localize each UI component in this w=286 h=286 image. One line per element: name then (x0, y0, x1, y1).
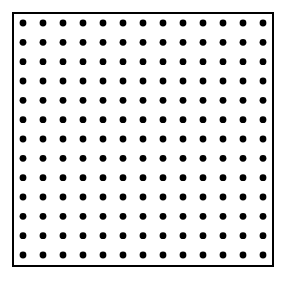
grid-dot (160, 174, 167, 181)
grid-dot (180, 78, 187, 85)
grid-dot (160, 232, 167, 239)
grid-dot (140, 174, 147, 181)
grid-dot (60, 78, 67, 85)
grid-dot (80, 20, 87, 27)
grid-dot (200, 136, 207, 143)
grid-dot (40, 174, 47, 181)
grid-dot (140, 78, 147, 85)
grid-dot (100, 97, 107, 104)
grid-dot (100, 116, 107, 123)
grid-dot (60, 194, 67, 201)
grid-dot (120, 174, 127, 181)
grid-dot (220, 78, 227, 85)
grid-dot (220, 116, 227, 123)
grid-dot (240, 155, 247, 162)
grid-dot (140, 155, 147, 162)
grid-dot (240, 252, 247, 259)
grid-dot (220, 39, 227, 46)
grid-dot (100, 194, 107, 201)
grid-dot (40, 155, 47, 162)
grid-dot (60, 155, 67, 162)
grid-dot (160, 116, 167, 123)
grid-dot (80, 97, 87, 104)
grid-dot (40, 232, 47, 239)
grid-dot (160, 39, 167, 46)
dot-grid-diagram (0, 0, 286, 286)
grid-dot (200, 78, 207, 85)
grid-dot (240, 20, 247, 27)
grid-dot (80, 116, 87, 123)
grid-dot (80, 194, 87, 201)
grid-dot (220, 58, 227, 65)
grid-dot (80, 58, 87, 65)
grid-dot (60, 232, 67, 239)
grid-dot (180, 58, 187, 65)
grid-dot (180, 155, 187, 162)
grid-dot (120, 252, 127, 259)
grid-dot (260, 213, 267, 220)
grid-dot (160, 213, 167, 220)
grid-dot (80, 39, 87, 46)
grid-dot (20, 39, 27, 46)
grid-dot (100, 78, 107, 85)
grid-dot (80, 252, 87, 259)
grid-dot (260, 136, 267, 143)
grid-dot (200, 232, 207, 239)
grid-dot (200, 97, 207, 104)
grid-dot (140, 97, 147, 104)
grid-dot (160, 252, 167, 259)
grid-dot (20, 155, 27, 162)
grid-dot (260, 20, 267, 27)
grid-dot (220, 155, 227, 162)
grid-dot (260, 232, 267, 239)
grid-dot (140, 252, 147, 259)
grid-dot (160, 20, 167, 27)
grid-dot (220, 174, 227, 181)
grid-dot (140, 213, 147, 220)
grid-dot (200, 39, 207, 46)
grid-dot (40, 194, 47, 201)
grid-dot (260, 116, 267, 123)
grid-dot (100, 232, 107, 239)
grid-dot (60, 213, 67, 220)
grid-dot (120, 20, 127, 27)
grid-dot (180, 20, 187, 27)
grid-dot (180, 97, 187, 104)
grid-dot (260, 155, 267, 162)
grid-dot (240, 232, 247, 239)
grid-dot (60, 58, 67, 65)
grid-dot (160, 136, 167, 143)
grid-dot (200, 155, 207, 162)
grid-dot (20, 136, 27, 143)
grid-dot (20, 20, 27, 27)
grid-dot (200, 252, 207, 259)
grid-dot (40, 252, 47, 259)
grid-dot (160, 78, 167, 85)
grid-dot (160, 97, 167, 104)
grid-dot (260, 194, 267, 201)
grid-dot (200, 20, 207, 27)
grid-dot (240, 58, 247, 65)
grid-dot (220, 252, 227, 259)
grid-dot (180, 232, 187, 239)
grid-dot (180, 194, 187, 201)
grid-dot (160, 194, 167, 201)
grid-dot (260, 39, 267, 46)
grid-dot (220, 20, 227, 27)
grid-dot (60, 39, 67, 46)
grid-dot (100, 155, 107, 162)
grid-dot (40, 58, 47, 65)
grid-dot (20, 116, 27, 123)
grid-dot (180, 252, 187, 259)
grid-dot (240, 97, 247, 104)
grid-dot (260, 58, 267, 65)
grid-dot (240, 136, 247, 143)
grid-dot (40, 136, 47, 143)
grid-dot (20, 213, 27, 220)
grid-dot (120, 116, 127, 123)
grid-dot (240, 213, 247, 220)
grid-dot (40, 39, 47, 46)
grid-dot (200, 194, 207, 201)
grid-dot (240, 116, 247, 123)
grid-dot (20, 252, 27, 259)
